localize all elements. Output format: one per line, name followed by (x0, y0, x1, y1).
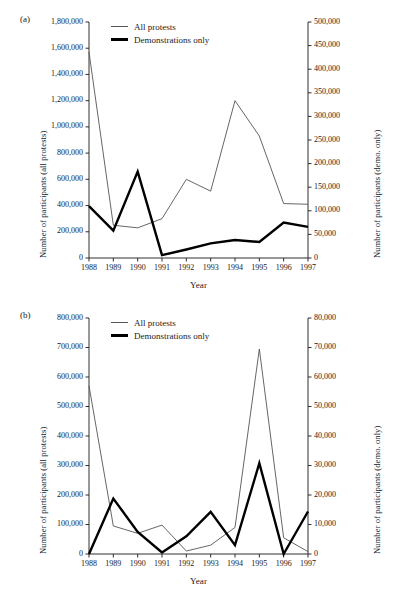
legend-line-icon (111, 334, 128, 336)
y-axis-left-tick-label: 200,000 (21, 491, 83, 499)
y-axis-left-title: Number of participants (all protests) (38, 427, 48, 554)
y-axis-right-tick-label: 80,000 (314, 314, 336, 322)
y-axis-right-tick-label: 60,000 (314, 373, 336, 381)
y-axis-left-tick-label: 700,000 (21, 343, 83, 351)
x-axis-title: Year (159, 576, 239, 586)
y-axis-right-tick-label: 250,000 (314, 136, 340, 144)
legend-item-label: Demonstrations only (134, 331, 209, 341)
x-axis-tick-label: 1997 (292, 264, 324, 272)
y-axis-right-tick-label: 150,000 (314, 183, 340, 191)
y-axis-right-title: Number of participants (demo. only) (372, 426, 382, 554)
x-axis-tick-label: 1997 (292, 560, 324, 568)
legend-item-all-protests: All protests (111, 316, 209, 329)
legend-item-label: Demonstrations only (134, 35, 209, 45)
y-axis-right-tick-label: 30,000 (314, 461, 336, 469)
legend-item-label: All protests (134, 318, 176, 328)
y-axis-left-tick-label: 600,000 (21, 373, 83, 381)
y-axis-right-tick-label: 0 (314, 254, 318, 262)
y-axis-right-tick-label: 500,000 (314, 18, 340, 26)
legend-line-icon (111, 26, 128, 27)
chart-panel-a: (a)0200,000400,000600,000800,0001,000,00… (0, 0, 397, 296)
y-axis-left-tick-label: 600,000 (21, 175, 83, 183)
y-axis-right-tick-label: 400,000 (314, 65, 340, 73)
y-axis-left-tick-label: 0 (21, 254, 83, 262)
y-axis-right-tick-label: 10,000 (314, 520, 336, 528)
legend: All protestsDemonstrations only (111, 316, 209, 342)
series-line-demonstrations-only (89, 172, 308, 256)
y-axis-right-tick-label: 300,000 (314, 112, 340, 120)
y-axis-left-tick-label: 1,200,000 (21, 96, 83, 104)
y-axis-right-tick-label: 40,000 (314, 432, 336, 440)
legend-item-demonstrations-only: Demonstrations only (111, 33, 209, 46)
y-axis-left-tick-label: 800,000 (21, 149, 83, 157)
y-axis-left-tick-label: 500,000 (21, 402, 83, 410)
y-axis-left-tick-label: 100,000 (21, 520, 83, 528)
y-axis-left-tick-label: 1,600,000 (21, 44, 83, 52)
y-axis-right-tick-label: 50,000 (314, 230, 336, 238)
y-axis-right-tick-label: 20,000 (314, 491, 336, 499)
y-axis-right-title: Number of participants (demo. only) (372, 130, 382, 258)
legend-item-label: All protests (134, 22, 176, 32)
y-axis-left-title: Number of participants (all protests) (38, 131, 48, 258)
y-axis-left-tick-label: 0 (21, 550, 83, 558)
legend-line-icon (111, 38, 128, 40)
series-line-demonstrations-only (89, 463, 308, 554)
x-axis-title: Year (159, 280, 239, 290)
y-axis-right-tick-label: 100,000 (314, 206, 340, 214)
y-axis-right-tick-label: 350,000 (314, 88, 340, 96)
y-axis-left-tick-label: 800,000 (21, 314, 83, 322)
series-line-all-protests (89, 52, 308, 228)
legend-item-demonstrations-only: Demonstrations only (111, 329, 209, 342)
y-axis-left-tick-label: 1,400,000 (21, 70, 83, 78)
legend-line-icon (111, 322, 128, 323)
legend: All protestsDemonstrations only (111, 20, 209, 46)
chart-panel-b: (b)0100,000200,000300,000400,000500,0006… (0, 296, 397, 592)
legend-item-all-protests: All protests (111, 20, 209, 33)
y-axis-left-tick-label: 400,000 (21, 432, 83, 440)
y-axis-left-tick-label: 300,000 (21, 461, 83, 469)
y-axis-right-tick-label: 70,000 (314, 343, 336, 351)
y-axis-left-tick-label: 1,800,000 (21, 18, 83, 26)
y-axis-right-tick-label: 450,000 (314, 41, 340, 49)
y-axis-right-tick-label: 200,000 (314, 159, 340, 167)
y-axis-left-tick-label: 400,000 (21, 201, 83, 209)
y-axis-left-tick-label: 1,000,000 (21, 122, 83, 130)
y-axis-left-tick-label: 200,000 (21, 227, 83, 235)
y-axis-right-tick-label: 50,000 (314, 402, 336, 410)
y-axis-right-tick-label: 0 (314, 550, 318, 558)
